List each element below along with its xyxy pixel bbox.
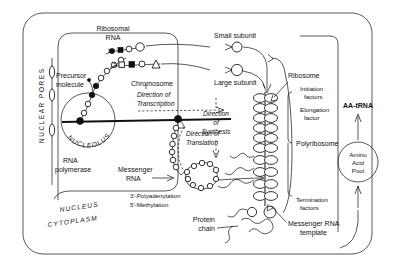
messenger-rna-label-line1: Messenger [118, 166, 153, 174]
protein-synthesis-diagram: NUCLEAR PORES NUCLEOLUS Precursor molecu… [0, 0, 395, 267]
ribosome-subunit [265, 124, 278, 133]
amino-acid-pool-line2: Acid [352, 159, 365, 166]
lower-chain-square [119, 62, 124, 67]
mrna-loop-bead [207, 161, 212, 166]
ribosome-subunit [265, 134, 278, 143]
mrna-loop-bead [213, 167, 218, 172]
mrna-loop-bead [185, 176, 190, 181]
polyribosome-ribosomes [254, 94, 278, 201]
direction-synthesis-line1: Direction [203, 110, 229, 117]
rna-polymerase-label-line1: RNA [63, 157, 78, 164]
direction-translation-line2: Translation [186, 139, 218, 146]
mrna-bead [171, 133, 177, 139]
aa-trna-label: AA-tRNA [343, 102, 373, 109]
rrna-bead [104, 68, 110, 74]
mrna-bead [173, 164, 179, 170]
ribosomal-rna-label-line2: RNA [106, 34, 121, 41]
rrna-bead [81, 110, 87, 116]
rna-polymerase-label-line2: polymerase [55, 166, 91, 174]
termination-factors-line2: factors [300, 204, 319, 211]
nuclear-pore-2 [49, 89, 54, 101]
precursor-leader-dot [87, 78, 90, 81]
polyribosome-label: Polyribosome [296, 140, 339, 148]
direction-synthesis-line3: Synthesis [202, 128, 231, 136]
ribosome-label: Ribosome [288, 72, 320, 79]
protein-chain-label-line2: chain [198, 225, 215, 232]
mrna-bead [170, 157, 176, 163]
ribosome-subunit [265, 114, 278, 123]
direction-transcription-line1: Direction of [137, 91, 172, 98]
ribosome-subunit [265, 144, 278, 153]
large-subunit-particle [231, 64, 242, 75]
nuclear-pore-1 [49, 66, 54, 78]
small-subunit-label: Small subunit [214, 32, 256, 39]
ribosome-subunit [265, 180, 278, 189]
nuclear-pores-label: NUCLEAR PORES [38, 68, 45, 144]
amino-acid-pool-line3: Pool [352, 167, 364, 174]
rrna-bead-filled [93, 83, 99, 89]
initiation-factors-line1: Initiation [300, 85, 324, 92]
polyadenylation-label: 3'-Polyadenylation [130, 192, 181, 199]
termination-factors-line1: Termination [296, 196, 329, 203]
chromosome-label: Chromosome [131, 80, 173, 87]
rna-polymerase-active-site [174, 115, 181, 122]
released-large-subunit [264, 206, 276, 218]
mrna-loop-bead [184, 169, 189, 174]
direction-transcription-line2: Transcription [137, 100, 175, 108]
ribosomal-rna-label-line1: Ribosomal [96, 25, 130, 32]
large-subunit-label: Large subunit [214, 79, 256, 87]
mrna-loop-bead [207, 183, 212, 188]
elongation-factor-line2: factor [304, 114, 319, 121]
initiation-factors-line2: factors [304, 93, 323, 100]
rrna-bead [85, 101, 91, 107]
rrna-bead [98, 75, 104, 81]
mrna-bead [169, 149, 175, 155]
mrna-loop-bead [190, 182, 195, 187]
amino-acid-pool-line1: Amino [349, 151, 367, 158]
mrna-loop-bead [199, 160, 204, 165]
upper-chain-node-large [136, 43, 144, 51]
mrna-loop-bead [191, 163, 196, 168]
upper-chain-square [118, 48, 123, 53]
upper-chain-node [126, 46, 132, 52]
ribosome-subunit [265, 192, 278, 201]
precursor-molecule-label-line1: Precursor [56, 72, 87, 79]
precursor-molecule-label-line2: molecule [56, 81, 84, 88]
elongation-factor-line1: Elongation [300, 106, 330, 113]
methylation-label: 5'-Methylation [130, 201, 169, 208]
messenger-rna-template-line1: Messenger RNA [288, 220, 340, 228]
nuclear-pore-3 [49, 124, 54, 136]
mrna-bead [170, 141, 176, 147]
mrna-loop-bead [213, 176, 218, 181]
protein-chain-label-line1: Protein [193, 216, 215, 223]
ribosome-subunit [265, 156, 278, 165]
messenger-rna-label-line2: RNA [126, 175, 141, 182]
messenger-rna-template-line2: template [300, 229, 327, 237]
lower-chain-square-filled [129, 62, 135, 68]
ribosome-subunit [265, 168, 278, 177]
lower-chain-node [139, 61, 145, 67]
mrna-loop-bead [198, 185, 203, 190]
ribosome-subunit [265, 104, 278, 113]
small-subunit-particle [232, 42, 242, 52]
mrna-bead [173, 125, 179, 131]
released-small-subunit [247, 207, 256, 216]
